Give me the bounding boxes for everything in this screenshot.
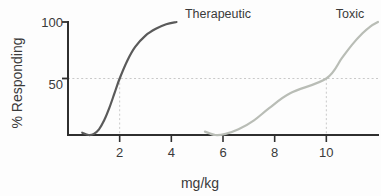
axes xyxy=(62,22,378,142)
y-axis-title: % Responding xyxy=(9,37,25,128)
x-tick-label-2: 2 xyxy=(116,145,123,160)
y-tick-label-50: 50 xyxy=(49,77,63,92)
y-tick-label-100: 100 xyxy=(41,15,63,30)
x-axis-tick-labels: 246810 xyxy=(116,145,334,160)
x-tick-label-10: 10 xyxy=(319,145,333,160)
dose-response-chart: 100 50 % Responding 246810 mg/kg Therape… xyxy=(0,0,381,196)
chart-canvas: 100 50 % Responding 246810 mg/kg Therape… xyxy=(0,0,381,196)
toxic-curve-label: Toxic xyxy=(336,7,364,21)
x-axis-tick-marks xyxy=(120,135,327,142)
reference-lines xyxy=(68,79,378,136)
x-tick-label-4: 4 xyxy=(168,145,175,160)
y-axis-tick-labels: 100 50 xyxy=(41,15,63,92)
x-tick-label-6: 6 xyxy=(219,145,226,160)
x-tick-label-8: 8 xyxy=(271,145,278,160)
therapeutic-curve-label: Therapeutic xyxy=(185,7,251,21)
x-axis-title: mg/kg xyxy=(181,175,219,191)
